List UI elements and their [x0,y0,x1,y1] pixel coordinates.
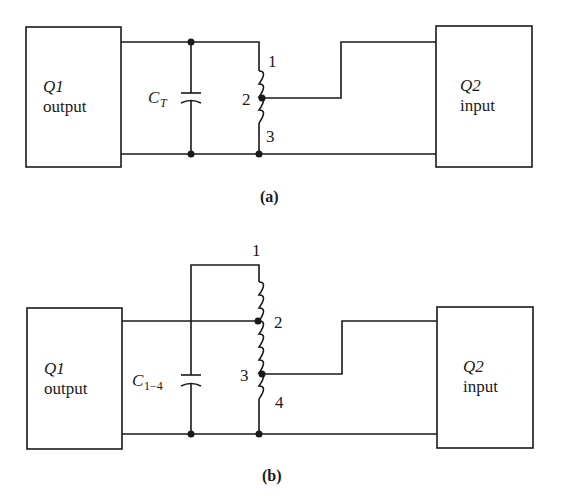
capacitor-subscript-b: 1−4 [144,379,163,393]
top-loop-wire-b [191,265,259,375]
circuit-b: Q1 output Q2 input C 1−4 1 2 3 [27,241,533,485]
q1-role-a: output [43,97,87,116]
tap-label-2-a: 2 [242,90,251,109]
tapped-inductor-coupling-diagram: Q1 output Q2 input C T 1 2 3 [0,0,563,499]
tap-label-2-b: 2 [274,313,283,332]
caption-a: (a) [260,188,279,206]
q2-role-a: input [460,96,495,115]
junction-dot [256,151,263,158]
tap-label-4-b: 4 [275,393,284,412]
inductor-coil-b [259,282,264,399]
q2-role-b: input [463,377,498,396]
tap-wire-a [262,42,436,98]
junction-dot [188,151,195,158]
caption-b: (b) [262,467,282,485]
tap-dot-3-b [259,371,266,378]
tap-dot-2-b [255,318,262,325]
capacitor-subscript-a: T [160,96,168,110]
junction-dot [256,431,263,438]
q1-label-b: Q1 [44,359,65,378]
tap-label-1-b: 1 [252,241,261,260]
tap-label-3-b: 3 [240,366,249,385]
capacitor-symbol-a: C [148,88,160,107]
q2-label-a: Q2 [460,76,481,95]
tap-label-3-a: 3 [266,127,275,146]
tap-dot-2-a [259,95,266,102]
junction-dot [188,39,195,46]
circuit-a: Q1 output Q2 input C T 1 2 3 [26,26,532,206]
top-wire-a [121,42,259,71]
junction-dot [188,431,195,438]
tap3-wire-b [262,321,437,374]
capacitor-symbol-b: C [132,371,144,390]
q1-role-b: output [44,379,88,398]
q2-label-b: Q2 [463,357,484,376]
q1-label-a: Q1 [43,77,64,96]
tap-label-1-a: 1 [268,52,277,71]
